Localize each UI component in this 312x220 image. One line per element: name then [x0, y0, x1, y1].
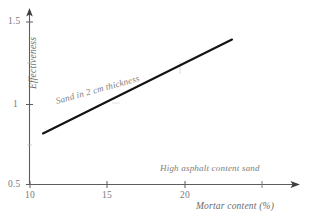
x-tick-label: 15: [102, 190, 112, 200]
chart-canvas: [0, 0, 312, 220]
x-tick-label: 20: [180, 190, 190, 200]
chart-figure: 1.5 1 0.5 10 15 20 Effectiveness Mortar …: [0, 0, 312, 220]
y-tick-label: 1: [13, 99, 18, 109]
x-tick-label: 10: [25, 190, 35, 200]
y-axis-title: Effectiveness: [28, 18, 38, 108]
x-axis-title: Mortar content (%): [196, 201, 274, 211]
data-line-sand-2cm: [43, 40, 232, 134]
series-label-high-asphalt-content-sand: High asphalt content sand: [160, 163, 260, 173]
y-tick-label: 1.5: [8, 16, 20, 26]
y-tick-label: 0.5: [8, 179, 20, 189]
